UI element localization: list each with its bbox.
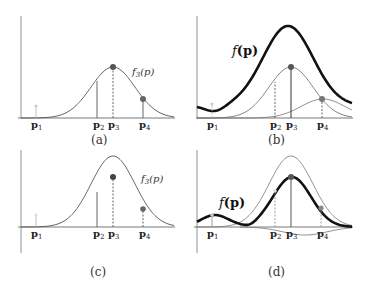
sample-marker-p3 bbox=[288, 174, 294, 180]
gaussian-f3-curve bbox=[21, 156, 174, 227]
point-label-p1: p1 bbox=[207, 119, 218, 132]
point-label-p3: p3 bbox=[108, 119, 119, 132]
point-label-p4: p4 bbox=[139, 119, 151, 132]
caption-c: (c) bbox=[90, 265, 106, 279]
sample-marker-p4 bbox=[140, 96, 146, 102]
point-label-p1: p1 bbox=[31, 228, 42, 241]
caption-b: (b) bbox=[268, 133, 285, 147]
curve-label: f3(p) bbox=[140, 173, 163, 186]
sample-marker-p4 bbox=[140, 206, 146, 212]
caption-d: (d) bbox=[268, 265, 285, 279]
point-label-p2: p2 bbox=[270, 228, 281, 241]
curve-label: f(p) bbox=[231, 43, 258, 58]
sample-marker-p4 bbox=[319, 96, 325, 102]
point-label-p3: p3 bbox=[286, 228, 297, 241]
point-label-p2: p2 bbox=[270, 119, 281, 132]
sample-marker-p3 bbox=[288, 64, 294, 70]
sample-marker-p1 bbox=[210, 102, 213, 105]
panel-d: f(p) p1 p2 p3 p4 (d) bbox=[194, 150, 353, 279]
sum-curve-f bbox=[197, 26, 352, 111]
point-label-p4: p4 bbox=[317, 228, 329, 241]
point-label-p4: p4 bbox=[139, 228, 151, 241]
sample-marker-p3 bbox=[110, 174, 116, 180]
figure: f3(p) p1 p2 p3 p4 (a) f(p) p1 p2 p3 p4 (… bbox=[0, 0, 372, 290]
point-label-p2: p2 bbox=[93, 119, 104, 132]
point-label-p3: p3 bbox=[286, 119, 297, 132]
point-label-p1: p1 bbox=[207, 228, 218, 241]
curve-label: f3(p) bbox=[131, 66, 154, 79]
point-label-p4: p4 bbox=[317, 119, 329, 132]
sample-marker-p3 bbox=[110, 64, 116, 70]
panel-a: f3(p) p1 p2 p3 p4 (a) bbox=[18, 16, 175, 147]
sample-marker-p4 bbox=[318, 205, 323, 210]
sample-marker-p2 bbox=[273, 189, 277, 193]
panel-b: f(p) p1 p2 p3 p4 (b) bbox=[196, 16, 353, 147]
caption-a: (a) bbox=[91, 133, 108, 147]
sample-marker-p1 bbox=[34, 104, 37, 107]
curve-label: f(p) bbox=[218, 195, 245, 210]
panel-c: f3(p) p1 p2 p3 p4 (c) bbox=[18, 150, 175, 279]
point-label-p1: p1 bbox=[31, 119, 42, 132]
sample-marker-p1 bbox=[210, 213, 214, 217]
point-label-p3: p3 bbox=[108, 228, 119, 241]
sample-marker-p1 bbox=[34, 213, 37, 216]
point-label-p2: p2 bbox=[93, 228, 104, 241]
